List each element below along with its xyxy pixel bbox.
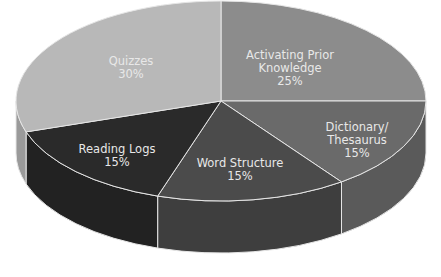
label-percent: 15%: [326, 147, 389, 160]
label-dictionary-thesaurus: Dictionary/ Thesaurus 15%: [326, 121, 389, 160]
label-percent: 25%: [246, 75, 334, 88]
label-word-structure: Word Structure 15%: [197, 157, 284, 183]
label-percent: 30%: [109, 68, 154, 81]
label-activating-prior-knowledge: Activating Prior Knowledge 25%: [246, 49, 334, 88]
label-quizzes: Quizzes 30%: [109, 55, 154, 81]
label-percent: 15%: [79, 156, 156, 169]
label-percent: 15%: [197, 170, 284, 183]
label-reading-logs: Reading Logs 15%: [79, 143, 156, 169]
